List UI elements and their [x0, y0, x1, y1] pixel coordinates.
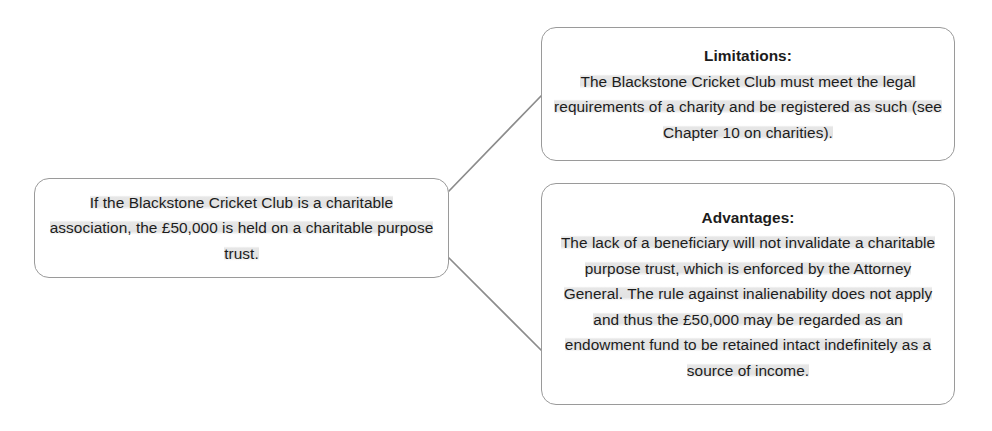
limitations-node-text: The Blackstone Cricket Club must meet th…	[542, 69, 954, 146]
source-node-text: If the Blackstone Cricket Club is a char…	[35, 190, 448, 267]
connector-source-to-limitations	[449, 96, 541, 191]
advantages-node-text: The lack of a beneficiary will not inval…	[542, 230, 954, 383]
source-node: If the Blackstone Cricket Club is a char…	[34, 178, 449, 278]
diagram-canvas: If the Blackstone Cricket Club is a char…	[0, 0, 992, 431]
advantages-node: Advantages: The lack of a beneficiary wi…	[541, 183, 955, 405]
limitations-node-heading: Limitations:	[704, 43, 792, 69]
source-node-text-span: If the Blackstone Cricket Club is a char…	[50, 194, 434, 262]
limitations-node: Limitations: The Blackstone Cricket Club…	[541, 27, 955, 161]
advantages-node-heading: Advantages:	[702, 205, 795, 231]
advantages-node-text-span: The lack of a beneficiary will not inval…	[561, 234, 935, 379]
limitations-node-text-span: The Blackstone Cricket Club must meet th…	[554, 73, 942, 141]
connector-source-to-advantages	[449, 258, 541, 350]
